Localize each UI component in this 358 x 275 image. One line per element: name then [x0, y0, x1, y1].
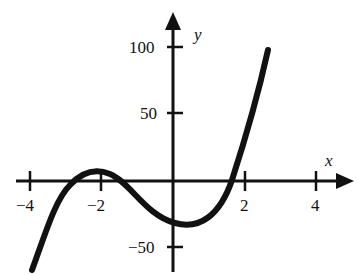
y-axis-arrow-icon: [165, 12, 181, 30]
y-tick-label-50: 50: [140, 104, 157, 123]
x-axis-arrow-icon: [336, 173, 354, 189]
y-axis: [165, 12, 183, 272]
chart: −4 −2 2 4 100 50 −50 y x: [0, 0, 358, 275]
y-tick-label-neg50: −50: [128, 238, 155, 257]
curve: [32, 50, 268, 270]
x-tick-label-2: 2: [240, 196, 249, 215]
y-tick-label-100: 100: [129, 38, 155, 57]
x-tick-label-4: 4: [311, 196, 320, 215]
x-tick-label-neg4: −4: [16, 196, 35, 215]
x-axis-label: x: [324, 151, 333, 170]
x-tick-label-neg2: −2: [87, 196, 105, 215]
y-axis-label: y: [192, 25, 202, 44]
